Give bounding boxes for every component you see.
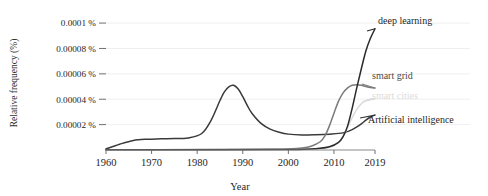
x-axis-ticks-group: 1960197019801990200020102019 <box>96 150 386 168</box>
x-tick-label: 2010 <box>323 157 344 168</box>
series-label-smart-cities: smart cities <box>372 90 418 101</box>
y-tick-label: 0.0001 % <box>61 18 97 28</box>
series-label-deep-learning: deep learning <box>378 15 432 26</box>
x-tick-label: 1990 <box>232 157 253 168</box>
x-tick-label: 1960 <box>96 157 117 168</box>
x-tick-label: 1970 <box>141 157 162 168</box>
y-tick-label: 0.00002 % <box>56 120 96 130</box>
y-axis-ticks-group: 0.00002 %0.00004 %0.00006 %0.00008 %0.00… <box>56 18 106 130</box>
series-curves-group <box>106 29 375 150</box>
gridlines-group <box>106 23 470 125</box>
x-tick-label: 2000 <box>278 157 299 168</box>
series-label-smart-grid: smart grid <box>372 70 413 81</box>
chart-canvas: 0.00002 %0.00004 %0.00006 %0.00008 %0.00… <box>0 0 488 196</box>
y-tick-label: 0.00004 % <box>56 95 96 105</box>
y-axis-title: Relative frequency (%) <box>9 39 20 128</box>
y-tick-label: 0.00006 % <box>56 69 96 79</box>
series-line-artificial-intelligence <box>106 85 375 149</box>
x-axis-title: Year <box>230 181 250 192</box>
series-line-deep-learning <box>106 29 375 150</box>
x-tick-label: 2019 <box>365 157 386 168</box>
x-tick-label: 1980 <box>187 157 208 168</box>
y-tick-label: 0.00008 % <box>56 44 96 54</box>
series-label-artificial-intelligence: Artificial intelligence <box>368 114 454 125</box>
relative-frequency-line-chart: 0.00002 %0.00004 %0.00006 %0.00008 %0.00… <box>0 0 488 196</box>
